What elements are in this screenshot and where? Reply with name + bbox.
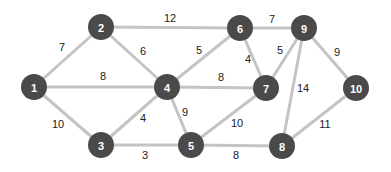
edge-4-7: [167, 87, 266, 88]
edge-weight-label: 8: [233, 149, 239, 161]
edge-weight-label: 6: [140, 45, 146, 57]
node-label: 2: [98, 22, 104, 34]
node-label: 1: [31, 82, 37, 94]
edge-4-6: [167, 28, 240, 87]
edge-weight-label: 9: [182, 106, 188, 118]
graph-node-10: 10: [343, 75, 369, 101]
edge-weight-label: 12: [164, 12, 176, 24]
edge-5-8: [191, 145, 282, 146]
edge-1-3: [34, 87, 101, 145]
edge-weight-label: 10: [52, 118, 64, 130]
node-label: 5: [188, 140, 194, 152]
edge-weight-label: 9: [334, 46, 340, 58]
graph-node-8: 8: [269, 133, 295, 159]
graph-node-5: 5: [178, 132, 204, 158]
node-label: 7: [263, 83, 269, 95]
edge-weight-label: 11: [319, 118, 330, 130]
edge-weight-label: 5: [196, 44, 202, 56]
node-label: 10: [350, 83, 362, 95]
weighted-graph: 71276545988141049101138 12345678910: [0, 0, 391, 172]
edge-weight-label: 10: [231, 117, 243, 129]
graph-node-1: 1: [21, 74, 47, 100]
edge-2-6: [101, 27, 240, 28]
edge-weight-label: 4: [140, 112, 146, 124]
graph-node-9: 9: [291, 15, 317, 41]
edge-2-4: [101, 27, 167, 87]
edge-weight-label: 7: [269, 13, 275, 25]
edge-10-8: [282, 88, 356, 146]
graph-node-6: 6: [227, 15, 253, 41]
node-label: 4: [164, 82, 171, 94]
graph-node-4: 4: [154, 74, 180, 100]
edge-weight-label: 8: [218, 71, 224, 83]
edge-weight-label: 5: [277, 44, 283, 56]
edge-1-2: [34, 27, 101, 87]
edge-weight-label: 3: [142, 149, 148, 161]
edge-weight-label: 8: [100, 70, 106, 82]
node-label: 9: [301, 23, 307, 35]
graph-node-7: 7: [253, 75, 279, 101]
node-label: 6: [237, 23, 243, 35]
graph-node-2: 2: [88, 14, 114, 40]
node-label: 3: [98, 140, 104, 152]
node-label: 8: [279, 141, 285, 153]
edge-5-7: [191, 88, 266, 145]
edge-weight-label: 14: [297, 82, 309, 94]
edge-weight-label: 4: [245, 53, 251, 65]
graph-node-3: 3: [88, 132, 114, 158]
edge-3-4: [101, 87, 167, 145]
edge-weight-label: 7: [59, 41, 65, 53]
